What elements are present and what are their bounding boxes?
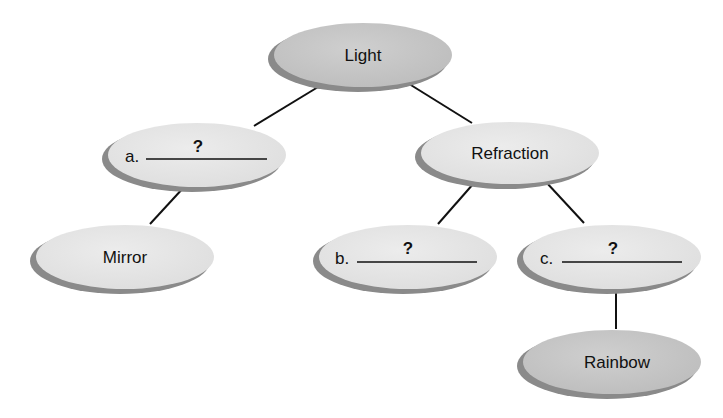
node-c-prefix: c. [540,249,553,268]
node-refraction-label: Refraction [471,144,548,163]
node-rainbow-label: Rainbow [584,353,651,372]
node-mirror: Mirror [30,225,214,294]
node-a: a. ? [102,123,286,192]
node-b: b. ? [313,225,497,294]
node-a-question: ? [193,137,203,156]
node-mirror-label: Mirror [103,248,148,267]
edge-light-refraction [406,82,472,123]
node-c-question: ? [608,239,618,258]
node-c: c. ? [517,225,701,294]
node-light-label: Light [345,46,382,65]
edge-a-mirror [150,186,185,224]
node-light: Light [268,23,452,92]
node-b-question: ? [403,239,413,258]
node-a-prefix: a. [125,147,139,166]
edge-refraction-c [546,182,584,223]
edge-refraction-b [438,183,474,224]
edge-light-a [254,84,323,126]
node-refraction: Refraction [415,122,599,189]
node-b-prefix: b. [335,249,349,268]
node-rainbow: Rainbow [517,330,701,399]
concept-map: Light a. ? Refraction Mirror b. ? c. ? [0,0,723,418]
